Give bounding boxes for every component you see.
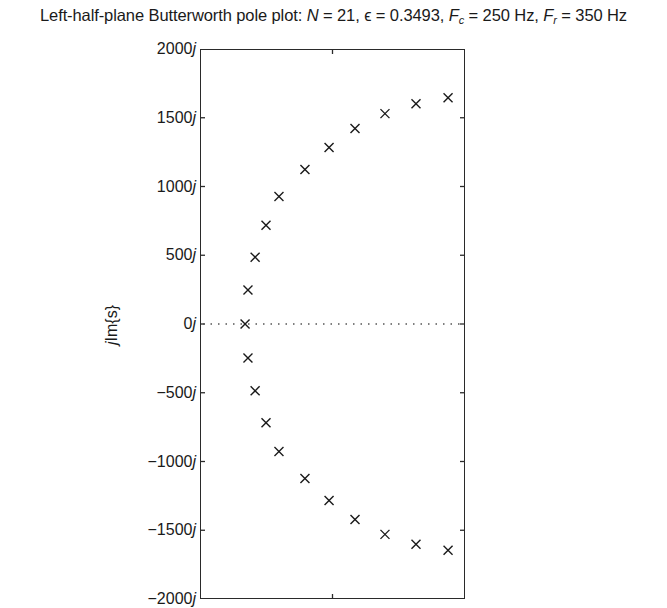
pole-marker-x-icon: [243, 286, 252, 295]
pole-marker-x-icon: [444, 546, 453, 555]
pole-marker-x-icon: [261, 221, 270, 230]
pole-marker-x-icon: [351, 124, 360, 133]
pole-marker-x-icon: [261, 418, 270, 427]
pole-marker-x-icon: [243, 353, 252, 362]
pole-marker-x-icon: [444, 93, 453, 102]
pole-marker-x-icon: [411, 540, 420, 549]
pole-marker-x-icon: [411, 99, 420, 108]
pole-marker-x-icon: [300, 474, 309, 483]
pole-marker-x-icon: [274, 447, 283, 456]
pole-marker-x-icon: [380, 530, 389, 539]
pole-marker-x-icon: [325, 143, 334, 152]
pole-marker-x-icon: [351, 515, 360, 524]
pole-marker-x-icon: [251, 253, 260, 262]
pole-marker-x-icon: [274, 192, 283, 201]
pole-marker-x-icon: [380, 109, 389, 118]
pole-marker-x-icon: [251, 386, 260, 395]
pole-marker-x-icon: [325, 496, 334, 505]
pole-marker-x-icon: [300, 165, 309, 174]
